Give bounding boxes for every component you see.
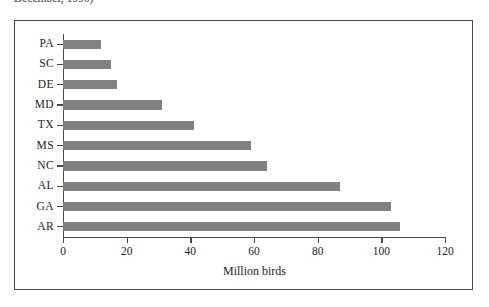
x-axis-tick: [190, 237, 191, 243]
bar-row: PA: [63, 34, 445, 54]
bar: [63, 100, 162, 109]
x-axis-tick-label: 20: [121, 245, 133, 258]
bar: [63, 141, 251, 150]
y-axis-tick-label: MS: [37, 139, 54, 152]
y-axis-tick-label: MD: [35, 98, 54, 111]
x-axis-tick-label: 120: [436, 245, 453, 258]
x-axis-tick: [254, 237, 255, 243]
bar: [63, 40, 101, 49]
y-axis-tick-label: PA: [40, 37, 54, 50]
x-axis-tick-label: 80: [312, 245, 324, 258]
x-axis-tick-label: 100: [373, 245, 390, 258]
bar-row: TX: [63, 115, 445, 135]
bar-row: NC: [63, 156, 445, 176]
x-axis-tick-label: 0: [60, 245, 66, 258]
y-axis-tick-label: SC: [39, 57, 54, 70]
bar: [63, 202, 391, 211]
figure-caption: December, 1996): [14, 0, 214, 5]
bar: [63, 182, 340, 191]
bar: [63, 60, 111, 69]
bar-row: MD: [63, 95, 445, 115]
x-axis-tick: [127, 237, 128, 243]
y-axis-tick-label: AL: [38, 179, 54, 192]
bar: [63, 161, 267, 170]
y-axis-tick-label: DE: [38, 78, 54, 91]
chart-figure-frame: PASCDEMDTXMSNCALGAAR Million birds 02040…: [14, 20, 473, 290]
x-axis-tick: [318, 237, 319, 243]
y-axis-tick-label: NC: [37, 159, 54, 172]
bar: [63, 121, 194, 130]
bar-row: AL: [63, 176, 445, 196]
bar-row: DE: [63, 75, 445, 95]
bar-row: GA: [63, 196, 445, 216]
figure-caption-text: December, 1996): [14, 0, 214, 5]
y-axis-tick-label: TX: [38, 118, 54, 131]
bar: [63, 222, 400, 231]
x-axis-title: Million birds: [63, 264, 446, 279]
x-axis-tick-label: 60: [248, 245, 260, 258]
bar-row: SC: [63, 54, 445, 74]
y-axis-tick-label: AR: [37, 220, 54, 233]
bar: [63, 80, 117, 89]
bar-chart-plot-area: PASCDEMDTXMSNCALGAAR: [63, 34, 445, 237]
x-axis-tick: [381, 237, 382, 243]
y-axis-tick-label: GA: [37, 200, 54, 213]
bar-row: MS: [63, 136, 445, 156]
x-axis-tick: [445, 237, 446, 243]
bar-row: AR: [63, 217, 445, 237]
x-axis-tick: [63, 237, 64, 243]
x-axis-tick-label: 40: [185, 245, 197, 258]
